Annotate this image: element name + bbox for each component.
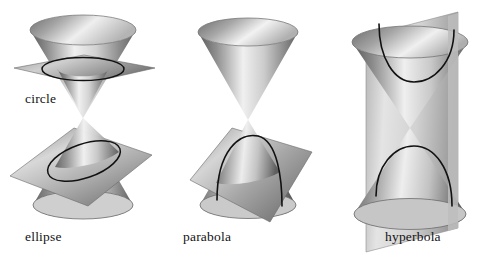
- caption-circle: circle: [25, 91, 56, 107]
- panel-hyperbola: [330, 0, 497, 263]
- parabola-illustration: [160, 0, 335, 263]
- caption-parabola: parabola: [183, 229, 231, 245]
- cone-below-plane: [58, 69, 109, 118]
- caption-ellipse: ellipse: [25, 229, 62, 245]
- conic-sections-figure: circle ellipse parabola hyperbola: [0, 0, 497, 263]
- caption-hyperbola: hyperbola: [385, 229, 441, 245]
- upper-cone-parabola-panel: [198, 18, 298, 120]
- hyperbola-illustration: [330, 0, 497, 263]
- tilted-cutting-plane-ellipse: [10, 118, 152, 206]
- panel-parabola: [160, 0, 335, 263]
- panel-circle-ellipse: [0, 0, 170, 263]
- circle-ellipse-illustration: [0, 0, 170, 263]
- horizontal-cutting-plane: [14, 55, 155, 118]
